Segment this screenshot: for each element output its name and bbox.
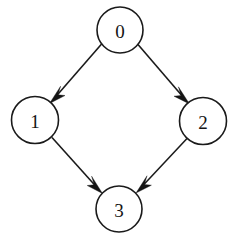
node-1-label: 1: [30, 111, 40, 132]
graph-node-2[interactable]: 2: [180, 98, 227, 145]
node-2-label: 2: [198, 112, 208, 133]
graph-node-1[interactable]: 1: [12, 97, 59, 144]
graph-node-0[interactable]: 0: [97, 7, 143, 53]
directed-graph-diagram: 0 1 2 3: [0, 0, 237, 240]
node-3-label: 3: [114, 200, 124, 221]
graph-node-3[interactable]: 3: [96, 186, 142, 232]
node-0-label: 0: [115, 21, 125, 42]
